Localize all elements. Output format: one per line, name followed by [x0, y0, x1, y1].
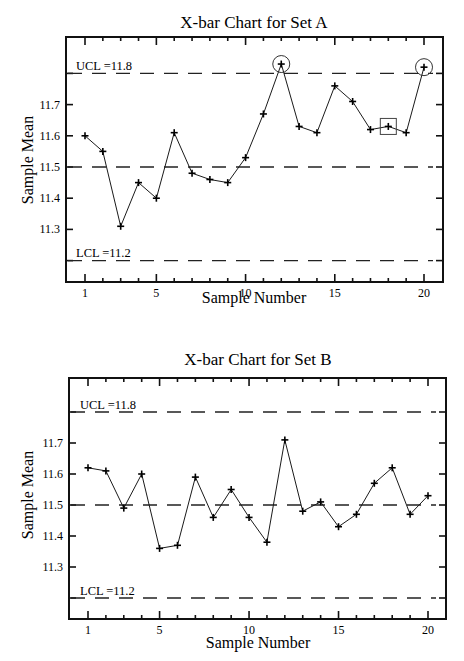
- control-limit-lines: [68, 73, 433, 260]
- x-tick-label: 5: [157, 623, 163, 637]
- x-tick-label: 5: [153, 286, 159, 300]
- x-axis-label: Sample Number: [206, 634, 311, 652]
- data-point-marker: [228, 486, 235, 493]
- xbar-chart-set-a: X-bar Chart for Set A Sample Mean Sample…: [19, 13, 443, 307]
- control-charts-figure: X-bar Chart for Set A Sample Mean Sample…: [0, 0, 464, 661]
- y-tick-label: 11.3: [39, 222, 60, 236]
- data-point-marker: [156, 545, 163, 552]
- data-point-marker: [224, 179, 231, 186]
- ucl-label: UCL =11.8: [76, 59, 132, 73]
- x-tick-label: 1: [85, 623, 91, 637]
- x-tick-label: 15: [329, 286, 341, 300]
- ucl-label: UCL =11.8: [80, 398, 136, 412]
- data-point-marker: [189, 170, 196, 177]
- y-tick-label: 11.7: [42, 436, 63, 450]
- plot-frame: [69, 378, 446, 619]
- data-point-marker: [138, 471, 145, 478]
- x-tick-label: 20: [422, 623, 434, 637]
- chart-title: X-bar Chart for Set A: [180, 13, 328, 32]
- data-point-marker: [421, 64, 428, 71]
- data-point-marker: [313, 129, 320, 136]
- data-point-marker: [246, 514, 253, 521]
- y-tick-label: 11.6: [42, 467, 63, 481]
- y-tick-label: 11.4: [39, 191, 60, 205]
- y-tick-label: 11.4: [42, 529, 63, 543]
- y-tick-label: 11.7: [39, 98, 60, 112]
- y-tick-label: 11.5: [39, 160, 60, 174]
- x-tick-label: 10: [240, 286, 252, 300]
- data-point-marker: [192, 474, 199, 481]
- data-point-marker: [117, 223, 124, 230]
- data-point-marker: [403, 129, 410, 136]
- series-line: [85, 64, 424, 226]
- x-tick-label: 10: [243, 623, 255, 637]
- y-axis-label: Sample Mean: [19, 451, 37, 539]
- lcl-label: LCL =11.2: [80, 584, 135, 598]
- data-point-marker: [85, 464, 92, 471]
- y-tick-label: 11.5: [42, 498, 63, 512]
- xbar-chart-set-b: X-bar Chart for Set B Sample Mean Sample…: [19, 350, 446, 652]
- data-point-marker: [102, 467, 109, 474]
- data-point-marker: [206, 176, 213, 183]
- data-point-marker: [278, 61, 285, 68]
- y-tick-label: 11.6: [39, 129, 60, 143]
- data-point-marker: [242, 154, 249, 161]
- data-series: [82, 61, 428, 230]
- data-point-marker: [174, 542, 181, 549]
- data-point-marker: [281, 436, 288, 443]
- x-axis-label: Sample Number: [202, 289, 307, 307]
- data-point-marker: [367, 126, 374, 133]
- data-point-marker: [210, 514, 217, 521]
- data-point-marker: [385, 123, 392, 130]
- data-point-marker: [353, 511, 360, 518]
- lcl-label: LCL =11.2: [76, 246, 131, 260]
- x-tick-label: 15: [333, 623, 345, 637]
- x-tick-label: 20: [418, 286, 430, 300]
- data-point-marker: [296, 123, 303, 130]
- chart-title: X-bar Chart for Set B: [184, 350, 331, 369]
- y-axis-label: Sample Mean: [19, 116, 37, 204]
- series-line: [88, 440, 428, 549]
- data-point-marker: [299, 508, 306, 515]
- data-point-marker: [335, 523, 342, 530]
- y-tick-label: 11.3: [42, 560, 63, 574]
- x-tick-label: 1: [82, 286, 88, 300]
- data-point-marker: [263, 539, 270, 546]
- data-series: [85, 436, 432, 552]
- data-point-marker: [171, 129, 178, 136]
- data-point-marker: [260, 110, 267, 117]
